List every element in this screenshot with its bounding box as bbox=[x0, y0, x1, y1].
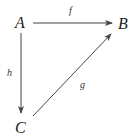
edge-label-f: f bbox=[69, 5, 73, 16]
node-c: C bbox=[15, 119, 26, 136]
edge-label-g: g bbox=[80, 79, 85, 90]
node-a: A bbox=[14, 14, 25, 31]
arrow-g-c-to-b bbox=[33, 34, 111, 116]
edge-label-h: h bbox=[7, 67, 12, 78]
node-b: B bbox=[118, 15, 128, 32]
commutative-diagram: A B C f h g bbox=[0, 0, 134, 138]
